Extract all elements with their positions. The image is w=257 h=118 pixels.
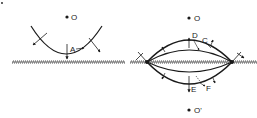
label-f: F (206, 84, 211, 93)
center-point-o-top (187, 16, 190, 19)
label-c: C (202, 36, 208, 45)
normal-arrow-right (89, 38, 100, 52)
label-a: A (70, 45, 76, 54)
diagram-canvas: O A O O' (0, 0, 257, 118)
label-o-prime: O' (194, 106, 202, 115)
arrow-upper-right (211, 40, 213, 45)
corner-dot (1, 2, 3, 4)
label-d: D (192, 31, 198, 40)
label-o-top: O (194, 14, 200, 23)
upper-outer-arc (147, 40, 232, 62)
right-panel: O O' D C E F (130, 14, 257, 115)
label-e: E (191, 85, 196, 94)
left-panel: O A (12, 13, 125, 64)
center-point-o-prime (187, 108, 190, 111)
arrow-lower-right (213, 78, 215, 83)
arrow-a (76, 48, 84, 49)
label-o: O (71, 13, 77, 22)
circular-arc (31, 26, 102, 54)
center-point-o (65, 15, 68, 18)
lower-outer-arc (147, 62, 232, 84)
